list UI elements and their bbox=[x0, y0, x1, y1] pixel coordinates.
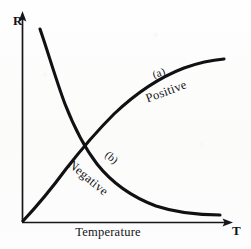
x-axis-label: T bbox=[232, 224, 241, 237]
x-axis-title: Temperature bbox=[0, 226, 216, 239]
y-axis-label: R bbox=[13, 14, 23, 27]
curve-positive bbox=[23, 59, 224, 221]
curve-negative bbox=[40, 29, 220, 215]
resistance-temperature-figure: R T Temperature (a) Positive (b) Negativ… bbox=[0, 0, 251, 249]
plot-canvas bbox=[0, 0, 251, 249]
